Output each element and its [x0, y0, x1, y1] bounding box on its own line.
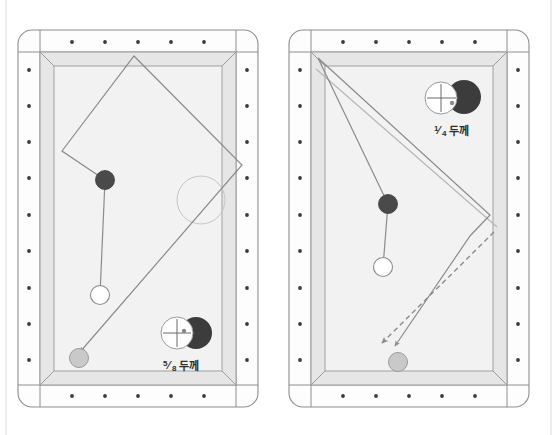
right-diagram: 1 ⁄ 4 두께: [289, 30, 529, 407]
thickness-suffix: 두께: [449, 124, 469, 137]
object-ball-dark: [96, 171, 115, 190]
contact-point-dot-icon: [182, 329, 186, 333]
thickness-suffix: 두께: [179, 359, 199, 372]
left-diagram: 5 ⁄ 8 두께: [18, 30, 258, 407]
thickness-denominator: 4: [442, 129, 447, 138]
contact-thickness-label: 5 ⁄ 8 두께: [163, 359, 199, 373]
cue-ball-white: [374, 258, 393, 277]
diagram-page: 5 ⁄ 8 두께: [0, 0, 557, 435]
target-ball-grey: [70, 349, 89, 368]
contact-point-icon: [161, 317, 212, 349]
contact-thickness-label: 1 ⁄ 4 두께: [434, 124, 469, 138]
cue-ball-white: [91, 286, 110, 305]
thickness-denominator: 8: [172, 364, 177, 373]
contact-point-icon: [425, 80, 481, 114]
billiards-diagram-canvas: 5 ⁄ 8 두께: [0, 0, 557, 435]
contact-point-dot-icon: [450, 101, 454, 105]
object-ball-dark: [379, 195, 398, 214]
target-ball-grey: [389, 353, 408, 372]
